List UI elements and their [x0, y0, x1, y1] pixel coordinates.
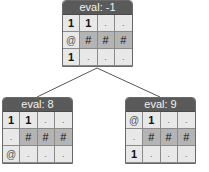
board-cell: @ [126, 112, 143, 129]
node-header: eval: 8 [3, 98, 72, 112]
board-grid: 11..@###1... [63, 15, 132, 66]
board-cell: # [55, 129, 72, 146]
board-cell: # [115, 32, 132, 49]
board-cell: 1 [80, 15, 97, 32]
board-cell: . [143, 146, 160, 163]
board-cell: @ [63, 32, 80, 49]
board-cell: . [126, 129, 143, 146]
board-cell: . [178, 146, 195, 163]
board-cell: . [3, 129, 20, 146]
edge-root-left [37, 68, 97, 97]
node-left-child: eval: 8 11...###@... [2, 97, 73, 164]
node-root: eval: -1 11..@###1... [62, 0, 133, 67]
node-header: eval: -1 [63, 1, 132, 15]
board-cell: 1 [20, 112, 37, 129]
board-cell: # [20, 129, 37, 146]
node-header: eval: 9 [126, 98, 195, 112]
board-cell: . [20, 146, 37, 163]
board-cell: . [38, 112, 55, 129]
board-grid: @1...###1... [126, 112, 195, 163]
board-cell: . [98, 15, 115, 32]
board-cell: . [98, 49, 115, 66]
board-cell: # [80, 32, 97, 49]
board-cell: . [115, 15, 132, 32]
board-cell: 1 [63, 49, 80, 66]
edge-root-right [97, 68, 160, 97]
board-cell: . [161, 146, 178, 163]
board-grid: 11...###@... [3, 112, 72, 163]
board-cell: 1 [63, 15, 80, 32]
board-cell: # [98, 32, 115, 49]
board-cell: 1 [3, 112, 20, 129]
board-cell: 1 [143, 112, 160, 129]
board-cell: # [38, 129, 55, 146]
board-cell: # [143, 129, 160, 146]
board-cell: 1 [126, 146, 143, 163]
node-right-child: eval: 9 @1...###1... [125, 97, 196, 164]
board-cell: . [55, 146, 72, 163]
board-cell: . [178, 112, 195, 129]
board-cell: # [161, 129, 178, 146]
board-cell: . [80, 49, 97, 66]
board-cell: . [55, 112, 72, 129]
board-cell: . [161, 112, 178, 129]
board-cell: . [115, 49, 132, 66]
board-cell: # [178, 129, 195, 146]
board-cell: @ [3, 146, 20, 163]
board-cell: . [38, 146, 55, 163]
